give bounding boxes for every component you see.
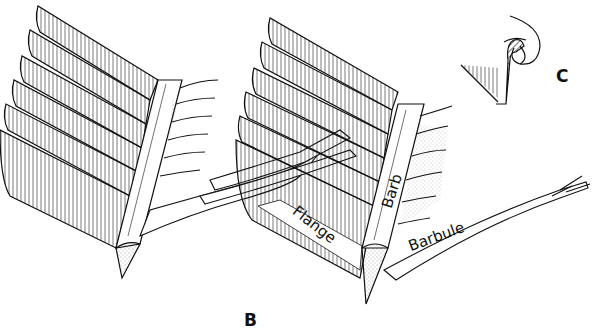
panel-label-c: C bbox=[556, 66, 568, 86]
feather-barb-diagram bbox=[0, 0, 594, 336]
panel-label-b: B bbox=[244, 310, 257, 330]
left-barb-group bbox=[0, 6, 218, 278]
hooklet-detail-c bbox=[461, 16, 540, 104]
